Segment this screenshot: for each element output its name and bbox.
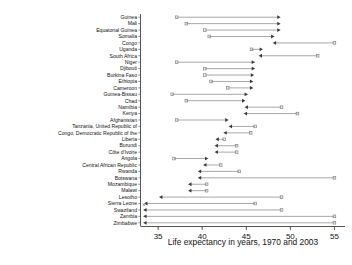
- category-label: Niger: [125, 59, 137, 65]
- category-label: Afghanistan: [110, 117, 137, 123]
- category-label: Zambia: [120, 213, 137, 219]
- category-label: Angola: [121, 155, 137, 161]
- category-label: Rwanda: [118, 168, 137, 174]
- x-axis-tick-label: 55: [330, 232, 339, 241]
- category-label: Uganda: [119, 46, 137, 52]
- category-label: Congo: [122, 40, 137, 46]
- category-label: Sierra Leone: [108, 200, 137, 206]
- category-label: Mozambique: [108, 181, 137, 187]
- category-label: Botswana: [115, 175, 138, 181]
- category-label: Chad: [125, 98, 137, 104]
- category-label: Liberia: [122, 136, 137, 142]
- category-label: Central African Republic: [82, 162, 137, 168]
- arrow-range-chart: GuineaMaliEquatorial GuineaSomaliaCongoU…: [0, 0, 352, 265]
- category-label: Cameroon: [113, 85, 137, 91]
- category-label: Congo, Democratic Republic of the: [58, 130, 137, 136]
- category-label: Equatorial Guinea: [96, 27, 137, 33]
- figure-container: GuineaMaliEquatorial GuineaSomaliaCongoU…: [0, 0, 352, 265]
- x-axis-tick-label: 35: [154, 232, 163, 241]
- category-label: Guinea-Bissau: [104, 91, 138, 97]
- category-label: Swaziland: [114, 207, 137, 213]
- category-label: Tanzania, United Republic of: [72, 123, 137, 129]
- category-label: Ethiopia: [119, 78, 138, 84]
- category-label: Djibouti: [120, 65, 137, 71]
- chart-background: [0, 0, 352, 265]
- category-label: Kenya: [123, 110, 138, 116]
- category-label: Mali: [128, 20, 137, 26]
- category-label: Burundi: [119, 142, 137, 148]
- category-label: Lesotho: [119, 194, 137, 200]
- category-label: Guinea: [121, 14, 138, 20]
- category-label: Côte d'Ivoire: [109, 149, 138, 155]
- category-label: Somalia: [119, 33, 138, 39]
- category-label: Zimbabwe: [114, 220, 138, 226]
- category-label: Malawi: [121, 187, 137, 193]
- category-label: Namibia: [118, 104, 137, 110]
- category-label: Burkina Faso: [107, 72, 137, 78]
- x-axis-title: Life expectancy in years, 1970 and 2003: [168, 237, 319, 247]
- category-label: South Africa: [110, 53, 138, 59]
